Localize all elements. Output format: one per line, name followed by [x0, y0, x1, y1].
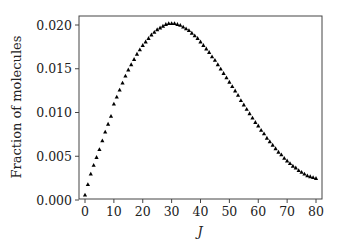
y-tick-label: 0.010 — [36, 105, 72, 120]
data-point-marker — [265, 136, 269, 140]
data-point-marker — [106, 122, 110, 126]
data-point-marker — [250, 116, 254, 120]
x-tick-label: 10 — [106, 204, 122, 219]
data-point-marker — [242, 103, 246, 107]
data-point-marker — [262, 131, 266, 135]
data-point-marker — [123, 74, 127, 78]
data-point-marker — [144, 40, 148, 44]
data-point-marker — [83, 193, 87, 197]
data-point-marker — [222, 71, 226, 75]
data-point-marker — [94, 155, 98, 159]
y-tick-label: 0.015 — [36, 61, 72, 76]
y-tick-label: 0.000 — [36, 193, 72, 208]
y-axis-label: Fraction of molecules — [9, 36, 24, 179]
x-tick-label: 50 — [221, 204, 237, 219]
data-point-marker — [115, 95, 119, 99]
data-point-marker — [253, 120, 257, 124]
data-point-marker — [92, 163, 96, 167]
data-point-marker — [172, 21, 176, 25]
data-point-marker — [247, 111, 251, 115]
data-point-marker — [129, 62, 133, 66]
x-tick-label: 0 — [81, 204, 89, 219]
data-point-marker — [86, 182, 90, 186]
data-point-marker — [213, 58, 217, 62]
plot-frame — [79, 16, 322, 199]
data-point-marker — [109, 114, 113, 118]
data-point-marker — [146, 36, 150, 40]
data-point-marker — [135, 52, 139, 56]
data-point-marker — [256, 124, 260, 128]
data-point-marker — [118, 88, 122, 92]
data-point-marker — [132, 57, 136, 61]
x-tick-label: 20 — [135, 204, 151, 219]
data-point-marker — [236, 93, 240, 97]
data-point-marker — [103, 130, 107, 134]
data-point-marker — [204, 47, 208, 51]
data-point-marker — [198, 40, 202, 44]
data-point-marker — [216, 62, 220, 66]
data-markers — [83, 21, 318, 196]
data-point-marker — [141, 43, 145, 47]
x-tick-label: 60 — [250, 204, 266, 219]
data-point-marker — [138, 47, 142, 51]
x-axis-label: J — [194, 224, 203, 239]
data-point-marker — [126, 68, 130, 72]
y-axis: 0.0000.0050.0100.0150.020 — [36, 18, 79, 208]
chart: 0.0000.0050.0100.0150.020 01020304050607… — [0, 0, 342, 244]
x-tick-label: 70 — [279, 204, 295, 219]
data-point-marker — [259, 128, 263, 132]
data-point-marker — [245, 107, 249, 111]
data-point-marker — [233, 89, 237, 93]
data-point-marker — [268, 139, 272, 143]
data-point-marker — [271, 143, 275, 147]
x-tick-label: 30 — [164, 204, 180, 219]
data-point-marker — [120, 81, 124, 85]
data-point-marker — [230, 84, 234, 88]
x-axis: 01020304050607080 — [81, 199, 324, 219]
data-point-marker — [112, 102, 116, 106]
data-point-marker — [282, 156, 286, 160]
y-tick-label: 0.020 — [36, 18, 72, 33]
x-tick-label: 80 — [308, 204, 324, 219]
data-point-marker — [100, 138, 104, 142]
data-point-marker — [224, 75, 228, 79]
data-point-marker — [97, 147, 101, 151]
data-point-marker — [239, 98, 243, 102]
data-point-marker — [227, 80, 231, 84]
y-tick-label: 0.005 — [36, 149, 72, 164]
x-tick-label: 40 — [193, 204, 209, 219]
data-point-marker — [89, 172, 93, 176]
data-point-marker — [273, 146, 277, 150]
data-point-marker — [201, 43, 205, 47]
data-point-marker — [219, 67, 223, 71]
data-point-marker — [207, 50, 211, 54]
data-point-marker — [276, 150, 280, 154]
data-point-marker — [210, 54, 214, 58]
